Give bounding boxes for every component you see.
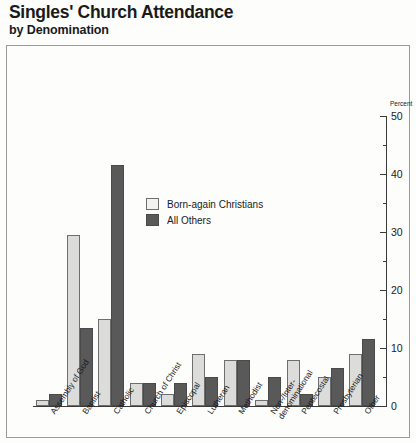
legend-label: All Others: [167, 215, 211, 226]
y-tick-major: [380, 348, 387, 349]
bar-group: [33, 116, 64, 406]
legend-swatch-born-again-christians: [146, 198, 159, 210]
page-title: Singles' Church Attendance: [9, 3, 339, 22]
y-tick-label: 30: [391, 227, 403, 237]
y-tick-minor: [383, 261, 387, 262]
y-tick-minor: [383, 203, 387, 204]
bar-group: [347, 116, 378, 406]
legend-item: Born-again Christians: [146, 198, 263, 210]
bar: [224, 360, 237, 406]
legend-label: Born-again Christians: [167, 199, 263, 210]
bar-group: [315, 116, 346, 406]
chart-page: Singles' Church Attendance by Denominati…: [0, 0, 416, 443]
bar-group: [127, 116, 158, 406]
y-tick-major: [380, 116, 387, 117]
y-tick-major: [380, 232, 387, 233]
y-tick-label: 50: [391, 111, 403, 121]
y-tick-label: 40: [391, 169, 403, 179]
y-tick-minor: [383, 377, 387, 378]
bar-group: [190, 116, 221, 406]
y-tick-minor: [383, 319, 387, 320]
bar-group: [221, 116, 252, 406]
y-tick-minor: [383, 145, 387, 146]
y-tick-label: 20: [391, 285, 403, 295]
bar-group: [96, 116, 127, 406]
y-tick-major: [380, 290, 387, 291]
y-tick-label: 0: [391, 401, 397, 411]
y-axis-title: Percent: [390, 100, 412, 107]
bar: [255, 400, 268, 406]
legend-item: All Others: [146, 214, 263, 226]
bar-group: [253, 116, 284, 406]
y-tick-label: 10: [391, 343, 403, 353]
legend: Born-again Christians All Others: [146, 198, 263, 230]
chart-subtitle: by Denomination: [9, 23, 339, 37]
bar: [111, 165, 124, 406]
y-tick-major: [380, 406, 387, 407]
legend-swatch-all-others: [146, 214, 159, 226]
chart-frame: Percent 01020304050 Assembly of GodBapti…: [6, 45, 410, 438]
bar-group: [284, 116, 315, 406]
y-tick-major: [380, 174, 387, 175]
bar: [36, 400, 49, 406]
title-block: Singles' Church Attendance by Denominati…: [9, 3, 339, 37]
